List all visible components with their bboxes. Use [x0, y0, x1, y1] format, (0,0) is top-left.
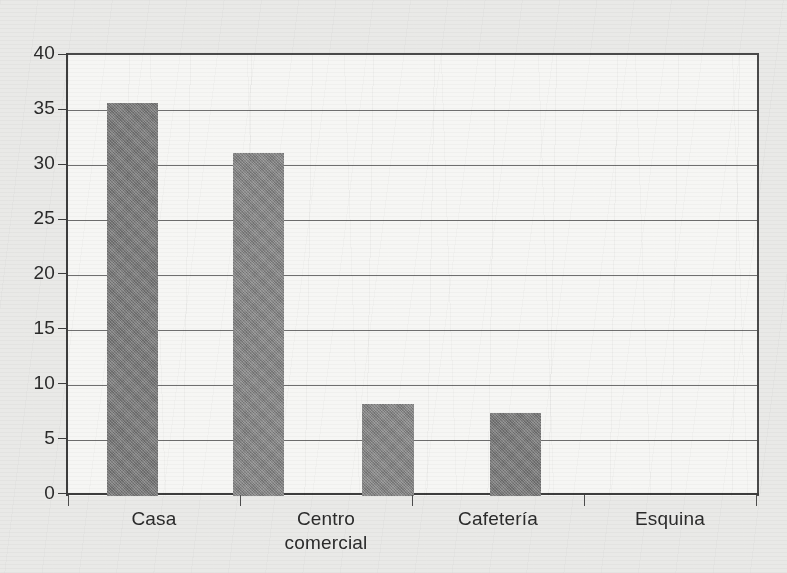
y-tick-label-25: 25 — [3, 207, 55, 229]
x-tick-mark-4 — [756, 495, 757, 506]
y-axis-tick-labels: 40 35 30 25 20 15 10 5 0 — [0, 0, 55, 573]
y-tick-label-5: 5 — [3, 427, 55, 449]
gridline-30 — [68, 165, 757, 166]
x-label-casa: Casa — [68, 507, 240, 531]
gridline-35 — [68, 110, 757, 111]
x-tick-mark-1 — [240, 495, 241, 506]
x-tick-mark-0 — [68, 495, 69, 506]
bar-esquina — [490, 413, 541, 496]
gridline-20 — [68, 275, 757, 276]
x-tick-mark-2 — [412, 495, 413, 506]
bar-cafeteria — [362, 404, 414, 496]
x-label-esquina: Esquina — [584, 507, 756, 531]
y-tick-label-10: 10 — [3, 372, 55, 394]
bar-centro-comercial — [233, 153, 284, 496]
x-tick-mark-3 — [584, 495, 585, 506]
gridline-25 — [68, 220, 757, 221]
y-tick-label-35: 35 — [3, 97, 55, 119]
plot-area — [68, 53, 759, 496]
gridline-10 — [68, 385, 757, 386]
y-tick-label-30: 30 — [3, 152, 55, 174]
y-tick-label-20: 20 — [3, 262, 55, 284]
bar-chart-figure: 40 35 30 25 20 15 10 5 0 — [0, 0, 787, 573]
bar-casa — [107, 103, 158, 496]
y-tick-label-40: 40 — [3, 42, 55, 64]
x-label-centro-comercial: Centro comercial — [240, 507, 412, 555]
y-tick-label-15: 15 — [3, 317, 55, 339]
y-tick-label-0: 0 — [3, 482, 55, 504]
gridline-15 — [68, 330, 757, 331]
x-label-cafeteria: Cafetería — [412, 507, 584, 531]
